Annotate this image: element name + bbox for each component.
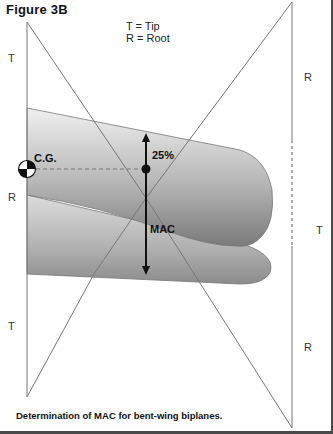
label-right-top: R	[304, 71, 312, 83]
label-right-middle: T	[316, 224, 323, 236]
diagonal-lower-left	[27, 274, 94, 397]
label-left-middle: R	[8, 191, 16, 203]
quarter-chord-label: 25%	[152, 149, 174, 161]
legend-tip: T = Tip	[126, 20, 170, 32]
cg-symbol-icon	[19, 161, 36, 178]
cg-label: C.G.	[34, 152, 57, 164]
figure-title: Figure 3B	[6, 2, 68, 17]
label-left-bottom: T	[8, 320, 15, 332]
legend: T = Tip R = Root	[126, 20, 170, 44]
figure-caption: Determination of MAC for bent-wing bipla…	[16, 410, 222, 421]
mac-label: MAC	[150, 223, 175, 235]
mac-construction-diagram	[0, 0, 333, 434]
label-left-top: T	[8, 52, 15, 64]
legend-root: R = Root	[126, 32, 170, 44]
figure-3b: Figure 3B T = Tip R = Root T R T R T R C…	[0, 0, 333, 434]
quarter-chord-point	[142, 165, 151, 174]
label-right-bottom: R	[304, 341, 312, 353]
